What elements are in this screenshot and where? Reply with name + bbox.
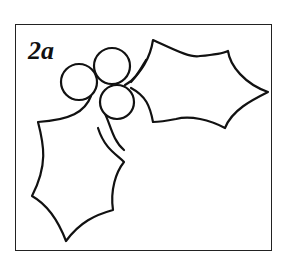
berry-bottom [100, 85, 134, 119]
right-leaf-outline [131, 40, 268, 128]
holly-illustration [0, 0, 284, 263]
berry-left [61, 64, 97, 100]
berry-top [94, 48, 130, 84]
